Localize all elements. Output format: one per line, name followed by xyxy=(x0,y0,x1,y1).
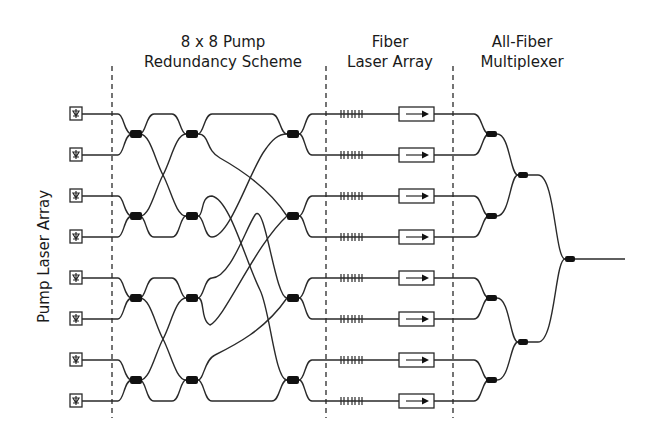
pump-laser xyxy=(70,230,82,243)
pump-laser xyxy=(70,394,82,407)
fiber-bragg-gratings xyxy=(341,110,362,405)
pump-input-fibers xyxy=(82,114,132,401)
isolator xyxy=(399,148,434,162)
coupler xyxy=(186,212,198,220)
stage3-output-fibers xyxy=(299,114,399,401)
multiplexer-coupler xyxy=(518,172,528,178)
coupler xyxy=(130,294,142,302)
pump-laser xyxy=(70,271,82,284)
fiber-bragg-grating-icon xyxy=(341,151,362,159)
coupler xyxy=(130,130,142,138)
isolator xyxy=(399,312,434,326)
pump-laser xyxy=(70,107,82,120)
multiplexer-coupler xyxy=(486,295,497,301)
isolator xyxy=(399,271,434,285)
pump-laser xyxy=(70,353,82,366)
isolator xyxy=(399,353,434,367)
pump-laser xyxy=(70,312,82,325)
fiber-bragg-grating-icon xyxy=(341,192,362,200)
coupler xyxy=(287,130,299,138)
coupler xyxy=(287,212,299,220)
coupler xyxy=(186,130,198,138)
pump-laser xyxy=(70,189,82,202)
isolators xyxy=(399,107,434,408)
coupler xyxy=(287,376,299,384)
coupler xyxy=(287,294,299,302)
coupler xyxy=(186,376,198,384)
stage1-to-stage2-fibers xyxy=(140,114,186,401)
coupler xyxy=(186,294,198,302)
coupler xyxy=(130,212,142,220)
multiplexer-coupler xyxy=(486,131,497,137)
fiber-bragg-grating-icon xyxy=(341,110,362,118)
fiber-bragg-grating-icon xyxy=(341,397,362,405)
stage2-to-stage3-fibers xyxy=(198,114,287,401)
isolator xyxy=(399,394,434,408)
isolator xyxy=(399,189,434,203)
multiplexer-coupler xyxy=(486,213,497,219)
fiber-laser-system-diagram xyxy=(0,0,656,437)
coupler xyxy=(130,376,142,384)
pump-laser-array xyxy=(70,107,82,407)
fiber-bragg-grating-icon xyxy=(341,274,362,282)
multiplexer-coupler xyxy=(486,377,497,383)
isolator xyxy=(399,107,434,121)
isolator xyxy=(399,230,434,244)
multiplexer-coupler xyxy=(518,339,528,345)
multiplexer-tree xyxy=(434,114,625,401)
fiber-bragg-grating-icon xyxy=(341,233,362,241)
fiber-bragg-grating-icon xyxy=(341,315,362,323)
fiber-bragg-grating-icon xyxy=(341,356,362,364)
multiplexer-coupler xyxy=(565,256,575,262)
pump-laser xyxy=(70,148,82,161)
